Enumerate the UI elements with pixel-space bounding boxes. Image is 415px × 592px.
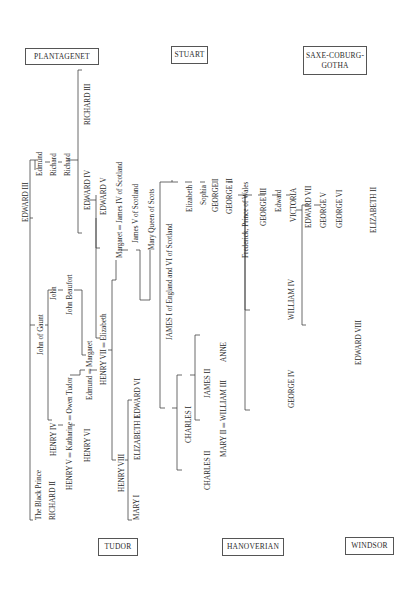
person-george-iii: GEORGE III xyxy=(260,188,268,226)
person-john-of-gaunt: John of Gaunt xyxy=(37,314,45,355)
house-saxe-coburg-gotha: SAXE-COBURG- GOTHA xyxy=(303,46,367,75)
person-charles-ii: CHARLES II xyxy=(204,451,212,490)
person-elizabeth-ii: ELIZABETH II xyxy=(370,187,378,233)
house-label: GOTHA xyxy=(321,61,348,71)
tree-connectors xyxy=(0,0,415,592)
house-hanoverian: HANOVERIAN xyxy=(222,538,284,556)
person-john: John xyxy=(50,286,58,300)
person-george-iv: GEORGE IV xyxy=(288,369,296,408)
person-mary-queen-of-scots: Mary Queen of Scots xyxy=(148,189,156,250)
person-frederick: Frederick, Prince of Wales xyxy=(242,182,250,258)
person-elizabeth-i: ELIZABETH I xyxy=(134,416,142,460)
person-richard-a: Richard xyxy=(50,153,58,176)
person-richard-iii: RICHARD III xyxy=(84,84,92,125)
person-edward-iv: EDWARD IV xyxy=(84,170,92,210)
house-label: STUART xyxy=(175,50,205,60)
person-victoria: VICTORIA xyxy=(290,188,298,222)
house-label: WINDSOR xyxy=(351,541,387,551)
house-plantagenet: PLANTAGENET xyxy=(25,48,99,65)
house-tudor: TUDOR xyxy=(98,538,138,556)
person-richard-ii: RICHARD II xyxy=(49,481,57,520)
person-edward-iii: EDWARD III xyxy=(22,182,30,222)
person-mary-ii-william-iii: MARY II ═ WILLIAM III xyxy=(220,380,228,457)
person-john-beaufort: John Beaufort xyxy=(66,274,74,315)
person-george-ii: GEORGE II xyxy=(226,178,234,214)
person-anne: ANNE xyxy=(220,342,228,362)
person-mary-i: MARY I xyxy=(133,495,141,520)
person-edward-vi: EDWARD VI xyxy=(134,378,142,418)
house-label: PLANTAGENET xyxy=(34,52,90,62)
house-label: HANOVERIAN xyxy=(227,542,279,552)
person-edward-viii: EDWARD VIII xyxy=(355,320,363,365)
house-stuart: STUART xyxy=(171,46,208,64)
house-label: TUDOR xyxy=(105,542,132,552)
person-henry-v: HENRY V ═ Katharine ═ Owen Tudor xyxy=(66,377,74,490)
person-margaret-james-iv: Margaret ═ James IV of Scotland xyxy=(116,162,124,258)
person-james-i: JAMES I of England and VI of Scotland xyxy=(166,223,174,340)
person-henry-vii: HENRY VII ═ Elizabeth xyxy=(100,313,108,385)
house-windsor: WINDSOR xyxy=(345,537,394,555)
person-sophia: Sophia xyxy=(200,185,208,205)
person-edward-vii: EDWARD VII xyxy=(305,186,313,228)
person-edward-v: EDWARD V xyxy=(100,177,108,215)
person-edmund: Edmund xyxy=(36,152,44,176)
person-charles-i: CHARLES I xyxy=(185,406,193,443)
person-elizabeth: Elizabeth xyxy=(186,185,194,212)
person-george-v: GEORGE V xyxy=(320,192,328,228)
person-james-v: James V of Scotland xyxy=(132,184,140,243)
person-black-prince: The Black Prince xyxy=(35,470,43,520)
person-henry-iv: HENRY IV xyxy=(50,423,58,456)
person-james-ii: JAMES II xyxy=(204,369,212,398)
person-william-iv: WILLIAM IV xyxy=(288,279,296,320)
person-henry-vi: HENRY VI xyxy=(84,429,92,462)
person-george-vi: GEORGE VI xyxy=(336,190,344,228)
person-henry-viii: HENRY VIII xyxy=(118,454,126,492)
person-edward: Edward xyxy=(275,190,283,212)
person-richard-b: Richard xyxy=(64,153,72,176)
house-label: SAXE-COBURG- xyxy=(306,51,364,61)
person-edmund-margaret: Edmund ═ Margaret xyxy=(86,341,94,400)
person-george-i: GEORGE I xyxy=(212,179,220,212)
